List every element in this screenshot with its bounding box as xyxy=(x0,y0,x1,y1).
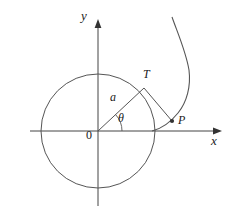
y-axis-arrowhead xyxy=(95,19,102,28)
involute-figure: y x 0 T P a θ xyxy=(0,0,236,218)
point-P-marker xyxy=(170,119,174,123)
y-axis-label: y xyxy=(81,9,87,22)
origin-label: 0 xyxy=(86,129,92,141)
angle-theta-label: θ xyxy=(118,112,124,124)
radius-label: a xyxy=(110,91,116,103)
point-P-label: P xyxy=(178,114,185,126)
x-axis-label: x xyxy=(211,134,217,147)
figure-canvas xyxy=(0,0,236,218)
point-T-label: T xyxy=(143,68,150,80)
